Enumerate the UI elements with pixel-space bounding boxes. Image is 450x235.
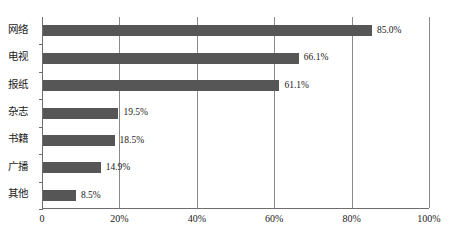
bar-value-label: 14.9%: [106, 163, 131, 173]
bar-group: 14.9%: [43, 162, 429, 173]
bar-value-label: 85.0%: [377, 26, 402, 36]
category-label: 网络: [0, 25, 36, 36]
bar: [43, 25, 372, 36]
x-axis-tick-label: 40%: [188, 214, 206, 224]
category-label: 电视: [0, 52, 36, 63]
bar-value-label: 18.5%: [120, 136, 145, 146]
x-axis-tick-label: 0: [40, 214, 45, 224]
x-axis-tick-label: 100%: [417, 214, 440, 224]
x-axis-tick-label: 60%: [265, 214, 283, 224]
category-label: 书籍: [0, 134, 36, 145]
category-label: 其他: [0, 189, 36, 200]
bar-group: 8.5%: [43, 190, 429, 201]
bar: [43, 190, 76, 201]
x-axis-tick-label: 20%: [110, 214, 128, 224]
axis-tick: [39, 154, 43, 155]
axis-tick: [39, 209, 43, 210]
bar: [43, 135, 115, 146]
bar: [43, 162, 101, 173]
bar-group: 61.1%: [43, 80, 429, 91]
bar-value-label: 8.5%: [81, 191, 101, 201]
plot-area: 85.0%66.1%61.1%19.5%18.5%14.9%8.5%: [42, 17, 429, 209]
axis-tick: [39, 182, 43, 183]
axis-tick: [39, 72, 43, 73]
x-axis-tick-label: 80%: [342, 214, 360, 224]
bar-value-label: 19.5%: [123, 108, 148, 118]
axis-tick: [39, 99, 43, 100]
bar: [43, 80, 279, 91]
gridline: [429, 17, 430, 208]
category-label: 杂志: [0, 107, 36, 118]
bar-value-label: 61.1%: [284, 81, 309, 91]
bar-value-label: 66.1%: [304, 53, 329, 63]
bar-group: 85.0%: [43, 25, 429, 36]
axis-tick: [39, 127, 43, 128]
bar: [43, 108, 118, 119]
bar-group: 19.5%: [43, 108, 429, 119]
axis-tick: [39, 44, 43, 45]
bar-chart: 85.0%66.1%61.1%19.5%18.5%14.9%8.5% 网络电视报…: [0, 0, 450, 235]
category-label: 广播: [0, 162, 36, 173]
bar-group: 18.5%: [43, 135, 429, 146]
bar-group: 66.1%: [43, 53, 429, 64]
category-label: 报纸: [0, 80, 36, 91]
bar: [43, 53, 299, 64]
